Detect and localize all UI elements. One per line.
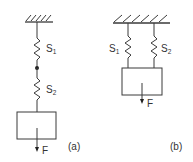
spring-label-s2-a: S2: [46, 84, 57, 96]
panel-b-parallel: [113, 15, 170, 104]
force-label-b: F: [147, 98, 153, 109]
spring-diagram-figure: S1 S2 F (a) S1 S2 F (b): [0, 0, 193, 162]
spring-label-s1-b: S1: [109, 43, 120, 55]
spring-label-s2-b: S2: [161, 43, 172, 55]
spring-s1-a: [34, 38, 40, 60]
caption-a: (a): [68, 141, 80, 152]
spring-label-s1-a: S1: [46, 43, 57, 55]
spring-s1-b: [125, 36, 131, 58]
force-label-a: F: [42, 145, 48, 156]
ceiling-b: [113, 15, 170, 23]
caption-b: (b): [170, 141, 182, 152]
spring-s2-b: [151, 36, 157, 58]
ceiling-a: [25, 15, 53, 22]
spring-s2-a: [34, 78, 40, 100]
